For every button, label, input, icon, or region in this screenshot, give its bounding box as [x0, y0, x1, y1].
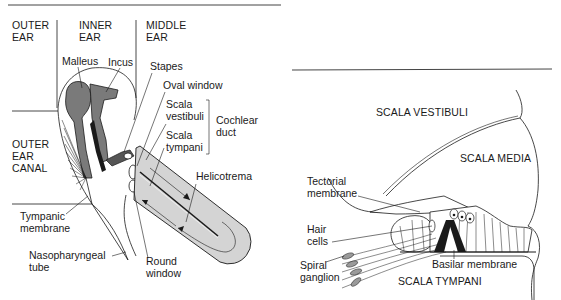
malleus-shape: [66, 82, 92, 178]
label-tympanic-membrane: Tympanic membrane: [20, 210, 70, 234]
label-scala-vestibuli: Scala vestibuli: [166, 98, 204, 122]
region-outer-ear: OUTER EAR: [12, 19, 52, 43]
label-helicotrema: Helicotrema: [196, 170, 252, 182]
left-ear-diagram: OUTER EAR INNER EAR MIDDLE EAR OUTER EAR…: [8, 5, 281, 279]
stapes-footplate: [124, 153, 132, 159]
cochlear-duct-bracket: [206, 100, 209, 154]
label-stapes: Stapes: [150, 60, 183, 72]
label-scala-tympani: Scala tympani: [166, 129, 203, 153]
label-scala-vestibuli-region: SCALA VESTIBULI: [376, 106, 468, 118]
cochlea-outer-wall: [516, 90, 540, 300]
label-malleus: Malleus: [62, 55, 98, 67]
label-basilar-membrane: Basilar membrane: [432, 258, 517, 270]
right-top-rule: [292, 69, 552, 70]
label-tectorial-membrane: Tectorial membrane: [307, 175, 357, 199]
label-nasopharyngeal-tube: Nasopharyngeal tube: [29, 249, 108, 273]
label-cochlear-duct: Cochlear duct: [216, 114, 261, 138]
label-round-window: Round window: [145, 255, 181, 279]
region-outer-ear-canal: OUTER EAR CANAL: [12, 138, 52, 174]
leader-stapes: [124, 73, 152, 152]
label-scala-tympani-region: SCALA TYMPANI: [398, 275, 482, 287]
ear-diagram-canvas: OUTER EAR INNER EAR MIDDLE EAR OUTER EAR…: [0, 0, 561, 300]
leader-incus: [106, 68, 120, 92]
tympanic-membrane-edge: [86, 178, 92, 204]
nasopharyngeal-tube-inner: [124, 195, 136, 256]
label-oval-window: Oval window: [163, 79, 223, 91]
label-incus: Incus: [108, 56, 133, 68]
leader-tympanic-membrane: [66, 196, 88, 214]
label-spiral-ganglion: Spiral ganglion: [300, 259, 340, 283]
label-scala-media-region: SCALA MEDIA: [460, 152, 531, 164]
region-inner-ear: INNER EAR: [79, 19, 115, 43]
spiral-ganglion-cells: [342, 252, 363, 288]
label-hair-cells: Hair cells: [307, 223, 329, 247]
uncoiled-cochlea: [134, 146, 251, 264]
leader-scala-vestibuli: [146, 124, 166, 160]
region-middle-ear: MIDDLE EAR: [146, 19, 189, 43]
right-cochlea-cross-section: SCALA VESTIBULI SCALA MEDIA SCALA TYMPAN…: [292, 69, 552, 300]
